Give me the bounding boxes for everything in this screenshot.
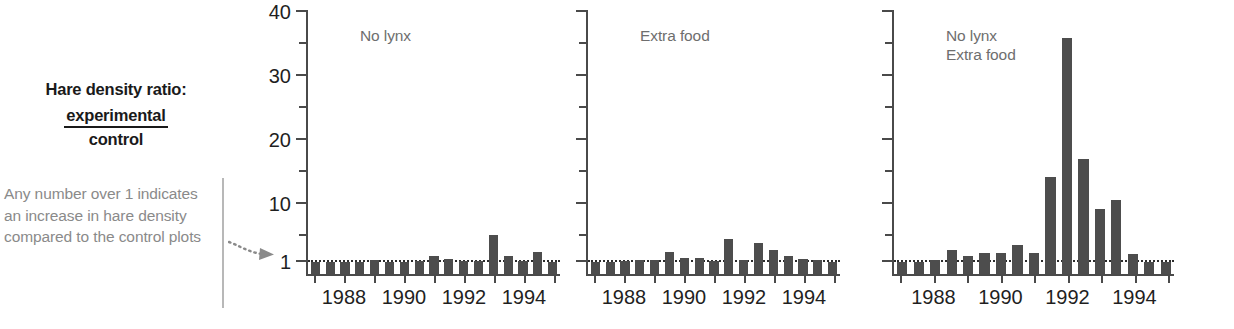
bar	[996, 253, 1006, 274]
bar	[340, 262, 349, 274]
y-tick-10	[882, 202, 894, 204]
caption-title: Hare density ratio:	[0, 80, 232, 99]
y-tick-10	[576, 202, 588, 204]
bar	[548, 262, 557, 274]
figure-root: Hare density ratio: experimental control…	[0, 0, 1234, 329]
x-tick-1994	[524, 274, 526, 283]
bar	[828, 262, 837, 274]
bar	[474, 261, 483, 274]
panel-title-no-lynx: No lynx	[360, 26, 411, 45]
x-tick-1992	[744, 274, 746, 283]
x-tick-1989	[654, 274, 656, 283]
y-minor-tick-15	[885, 170, 894, 172]
y-minor-tick-35	[579, 42, 588, 44]
y-tick-40	[882, 10, 894, 12]
x-tick-label-1990: 1990	[662, 286, 707, 309]
bar	[326, 262, 335, 274]
y-minor-tick-35	[299, 42, 308, 44]
x-tick-1988	[934, 274, 936, 283]
bar	[754, 243, 763, 274]
x-tick-label-1992: 1992	[722, 286, 767, 309]
y-tick-label-20: 20	[269, 129, 291, 152]
x-tick-1988	[344, 274, 346, 283]
bar	[620, 261, 629, 274]
bar	[591, 262, 600, 274]
bar	[311, 262, 320, 274]
x-tick-1990	[1001, 274, 1003, 283]
y-tick-30	[576, 74, 588, 76]
y-tick-30: 30	[296, 74, 308, 76]
bar	[1111, 200, 1121, 274]
bar	[489, 235, 498, 274]
y-minor-tick-25	[299, 106, 308, 108]
bar	[459, 261, 468, 274]
x-tick-label-1990: 1990	[382, 286, 427, 309]
plot-area-extra-food: Extra food1988199019921994	[586, 12, 840, 276]
bar	[635, 260, 644, 274]
bar	[930, 260, 940, 274]
bar	[415, 261, 424, 274]
caption-fraction: experimental control	[0, 106, 232, 149]
y-minor-tick-5	[299, 234, 308, 236]
y-tick-30	[882, 74, 894, 76]
y-tick-20: 20	[296, 138, 308, 140]
x-tick-1993	[774, 274, 776, 283]
x-tick-1993	[494, 274, 496, 283]
bar	[979, 253, 989, 274]
bar	[769, 250, 778, 274]
y-tick-20	[576, 138, 588, 140]
plot-area-no-lynx: No lynx1102030401988199019921994	[306, 12, 560, 276]
y-tick-10: 10	[296, 202, 308, 204]
bar	[518, 261, 527, 274]
x-tick-1989	[967, 274, 969, 283]
caption-divider	[222, 178, 224, 308]
bar	[1062, 38, 1072, 274]
y-minor-tick-15	[299, 170, 308, 172]
x-tick-label-1994: 1994	[502, 286, 547, 309]
bar	[355, 262, 364, 274]
x-tick-1994	[804, 274, 806, 283]
bar	[1128, 254, 1138, 274]
bar	[947, 250, 957, 274]
x-tick-1991	[1034, 274, 1036, 283]
bar	[504, 256, 513, 274]
bar	[709, 261, 718, 274]
x-tick-1992	[464, 274, 466, 283]
x-tick-1989	[374, 274, 376, 283]
bar	[1078, 159, 1088, 274]
y-minor-tick-5	[885, 234, 894, 236]
bar	[1144, 262, 1154, 274]
fraction-numerator: experimental	[64, 106, 167, 128]
x-tick-label-1992: 1992	[442, 286, 487, 309]
x-tick-1987	[594, 274, 596, 283]
bar	[650, 260, 659, 274]
bar	[680, 258, 689, 274]
bar	[798, 259, 807, 274]
x-tick-1990	[684, 274, 686, 283]
x-tick-1995	[554, 274, 556, 283]
x-tick-1988	[624, 274, 626, 283]
x-tick-label-1990: 1990	[978, 286, 1023, 309]
y-tick-label-10: 10	[269, 193, 291, 216]
bar	[1029, 253, 1039, 274]
bar	[784, 256, 793, 274]
bar	[665, 252, 674, 274]
bar	[429, 256, 438, 274]
panel-title-no-lynx-extra-food: No lynx Extra food	[946, 26, 1016, 64]
bar	[385, 262, 394, 274]
fraction-denominator: control	[0, 130, 232, 149]
y-minor-tick-5	[579, 234, 588, 236]
y-tick-label-1: 1	[280, 251, 291, 274]
x-tick-label-1988: 1988	[602, 286, 647, 309]
bar	[1012, 245, 1022, 274]
x-tick-1995	[1168, 274, 1170, 283]
bar	[370, 260, 379, 274]
y-tick-1	[576, 260, 588, 262]
caption-note: Any number over 1 indicates an increase …	[4, 183, 214, 248]
x-tick-1990	[404, 274, 406, 283]
bar	[606, 262, 615, 274]
y-tick-label-30: 30	[269, 65, 291, 88]
bar	[897, 262, 907, 274]
plot-area-no-lynx-extra-food: No lynx Extra food1988199019921994	[892, 12, 1174, 276]
panel-title-extra-food: Extra food	[640, 26, 710, 45]
